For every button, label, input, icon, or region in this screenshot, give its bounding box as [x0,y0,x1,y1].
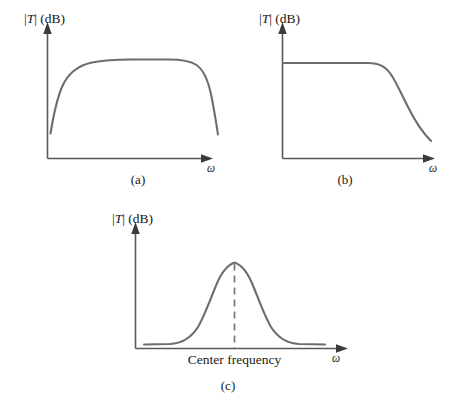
panel-c: |T| (dB) ω Center frequency (c) [112,211,348,393]
panel-b-y-axis-label: |T| (dB) [259,11,300,26]
filter-response-figure: |T| (dB) ω (a) |T| (dB) ω (b) [0,0,460,404]
panel-a-y-label-suffix: | (dB) [34,11,65,26]
panel-c-y-label-suffix: | (dB) [122,211,153,226]
panel-b: |T| (dB) ω (b) [259,11,437,187]
figure-canvas: |T| (dB) ω (a) |T| (dB) ω (b) [0,0,460,404]
panel-b-y-label-suffix: | (dB) [269,11,300,26]
panel-a-caption: (a) [131,172,145,187]
panel-b-caption: (b) [337,172,352,187]
panel-a: |T| (dB) ω (a) [24,11,218,187]
panel-a-response-curve [51,60,219,135]
panel-a-x-axis-label: ω [207,162,215,174]
panel-c-y-axis-label: |T| (dB) [112,211,153,226]
panel-b-response-curve [283,63,431,141]
panel-c-caption: (c) [221,378,235,393]
panel-a-y-axis-label: |T| (dB) [24,11,65,26]
panel-c-center-frequency-label: Center frequency [188,352,282,367]
panel-c-x-axis-label: ω [332,352,340,364]
panel-b-x-axis-label: ω [429,162,437,174]
